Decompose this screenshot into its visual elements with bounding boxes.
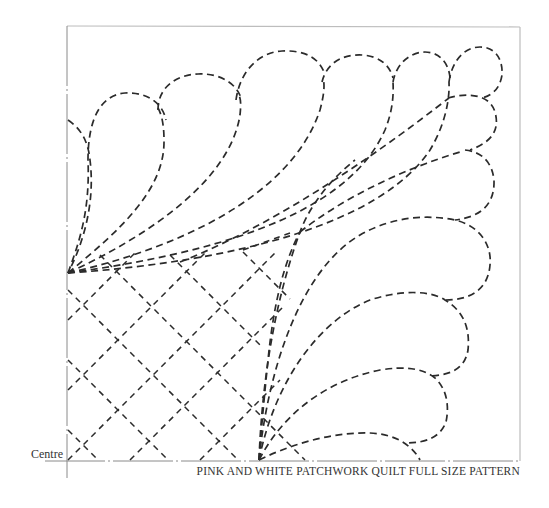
quilt-pattern-drawing <box>0 0 549 508</box>
centre-label: Centre <box>31 447 63 462</box>
frame-top <box>67 26 520 27</box>
pattern-caption: PINK AND WHITE PATCHWORK QUILT FULL SIZE… <box>197 465 520 477</box>
bottom-fan-feathers <box>259 152 490 460</box>
